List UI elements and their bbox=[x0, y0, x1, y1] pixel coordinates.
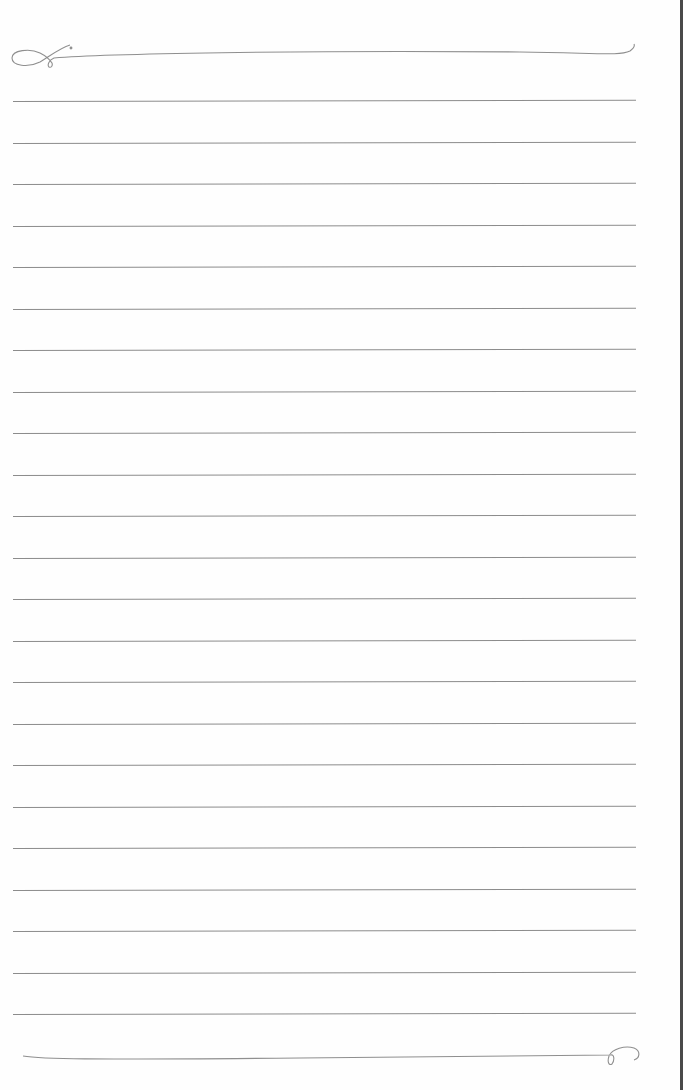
top-flourish-icon bbox=[12, 44, 634, 67]
decorative-flourishes bbox=[0, 0, 683, 1090]
bottom-flourish-icon bbox=[23, 1047, 639, 1065]
lined-paper-page bbox=[0, 0, 680, 1090]
